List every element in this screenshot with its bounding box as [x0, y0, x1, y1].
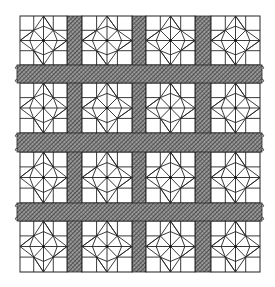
- star-block: [82, 152, 132, 203]
- star-block: [146, 16, 195, 65]
- star-block: [146, 152, 195, 203]
- star-block: [20, 221, 67, 272]
- star-block: [20, 152, 67, 203]
- star-block: [211, 221, 260, 272]
- star-block: [211, 83, 260, 133]
- quilt-illustration: [0, 0, 275, 287]
- star-block: [211, 152, 260, 203]
- sashing-strip-horizontal: [17, 133, 262, 152]
- star-block: [20, 16, 67, 65]
- star-block: [82, 221, 132, 272]
- sashing-strip-horizontal: [17, 203, 262, 221]
- star-block: [82, 83, 132, 133]
- star-block: [211, 16, 260, 65]
- star-block: [20, 83, 67, 133]
- star-block: [146, 83, 195, 133]
- sashing-strip-horizontal: [17, 65, 262, 83]
- star-block: [146, 221, 195, 272]
- star-block: [82, 16, 132, 65]
